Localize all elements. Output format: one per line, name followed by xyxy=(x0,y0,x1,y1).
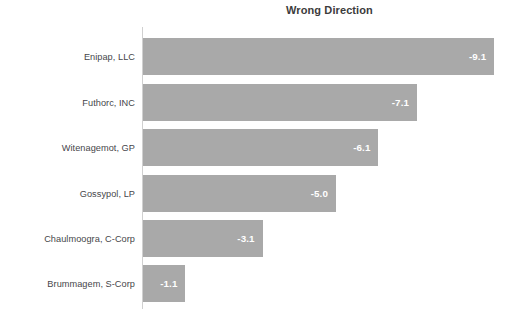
bar-row: Futhorc, INC -7.1 xyxy=(0,84,516,121)
bar-row: Chaulmoogra, C-Corp -3.1 xyxy=(0,220,516,257)
bar-value-label: -9.1 xyxy=(469,38,486,75)
bar-row: Gossypol, LP -5.0 xyxy=(0,175,516,212)
bar-value-label: -7.1 xyxy=(392,84,409,121)
bar[interactable]: -9.1 xyxy=(143,38,494,75)
bar[interactable]: -6.1 xyxy=(143,129,378,166)
bar-value-label: -1.1 xyxy=(160,265,177,302)
category-label: Brummagem, S-Corp xyxy=(0,265,135,302)
bar-value-label: -5.0 xyxy=(311,175,328,212)
plot-area: Enipap, LLC -9.1 Futhorc, INC -7.1 Witen… xyxy=(0,0,516,317)
bar[interactable]: -3.1 xyxy=(143,220,263,257)
category-label: Gossypol, LP xyxy=(0,175,135,212)
bar-row: Brummagem, S-Corp -1.1 xyxy=(0,265,516,302)
bar-chart: Wrong Direction Enipap, LLC -9.1 Futhorc… xyxy=(0,0,516,317)
bar[interactable]: -7.1 xyxy=(143,84,417,121)
bar[interactable]: -5.0 xyxy=(143,175,336,212)
bar-value-label: -6.1 xyxy=(353,129,370,166)
bar-value-label: -3.1 xyxy=(237,220,254,257)
bar-row: Witenagemot, GP -6.1 xyxy=(0,129,516,166)
category-label: Enipap, LLC xyxy=(0,38,135,75)
category-label: Witenagemot, GP xyxy=(0,129,135,166)
category-label: Futhorc, INC xyxy=(0,84,135,121)
bar[interactable]: -1.1 xyxy=(143,265,185,302)
category-label: Chaulmoogra, C-Corp xyxy=(0,220,135,257)
bar-row: Enipap, LLC -9.1 xyxy=(0,38,516,75)
